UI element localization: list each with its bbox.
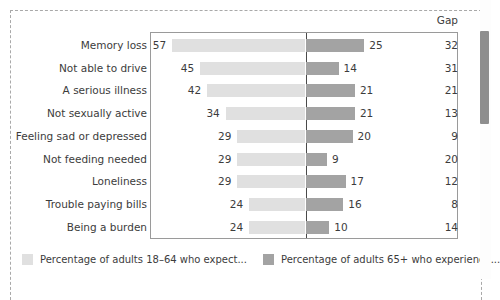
left-value-label: 57: [132, 34, 166, 57]
chart-row: A serious illness422121: [0, 79, 492, 102]
gap-value: 32: [445, 34, 458, 57]
chart-legend: Percentage of adults 18–64 who expect...…: [22, 250, 462, 268]
bar-left-18-64: [172, 39, 305, 52]
legend-swatch-light: [22, 254, 33, 265]
bar-left-18-64: [200, 62, 305, 75]
gap-value: 9: [451, 125, 458, 148]
chart-row: Not sexually active342113: [0, 102, 492, 125]
chart-row: Being a burden241014: [0, 216, 492, 239]
category-label: Not able to drive: [14, 57, 147, 80]
vertical-scrollbar-thumb[interactable]: [480, 31, 489, 124]
gap-value: 12: [445, 170, 458, 193]
right-value-label: 10: [334, 216, 347, 239]
legend-swatch-dark: [263, 254, 274, 265]
bar-left-18-64: [249, 198, 305, 211]
chart-row: Feeling sad or depressed29209: [0, 125, 492, 148]
category-label: Memory loss: [14, 34, 147, 57]
bar-right-65-plus: [306, 130, 353, 143]
bar-right-65-plus: [306, 107, 355, 120]
bar-left-18-64: [237, 175, 305, 188]
gap-value: 14: [445, 216, 458, 239]
chart-row: Loneliness291712: [0, 170, 492, 193]
left-value-label: 29: [197, 170, 231, 193]
bar-left-18-64: [237, 130, 305, 143]
gap-value: 21: [445, 79, 458, 102]
bar-right-65-plus: [306, 153, 327, 166]
right-value-label: 21: [360, 102, 373, 125]
bar-left-18-64: [226, 107, 305, 120]
chart-row: Memory loss572532: [0, 34, 492, 57]
left-value-label: 24: [209, 216, 243, 239]
left-value-label: 42: [167, 79, 201, 102]
right-value-label: 17: [351, 170, 364, 193]
gap-value: 8: [451, 193, 458, 216]
bar-right-65-plus: [306, 84, 355, 97]
category-label: Not sexually active: [14, 102, 147, 125]
chart-row: Not able to drive451431: [0, 57, 492, 80]
right-value-label: 25: [369, 34, 382, 57]
bar-right-65-plus: [306, 39, 364, 52]
right-value-label: 20: [358, 125, 371, 148]
bar-right-65-plus: [306, 198, 343, 211]
right-value-label: 9: [332, 148, 339, 171]
chart-row: Trouble paying bills24168: [0, 193, 492, 216]
bar-left-18-64: [249, 221, 305, 234]
left-value-label: 24: [209, 193, 243, 216]
category-label: Trouble paying bills: [14, 193, 147, 216]
category-label: Feeling sad or depressed: [14, 125, 147, 148]
right-value-label: 14: [344, 57, 357, 80]
bar-right-65-plus: [306, 62, 339, 75]
legend-item[interactable]: Percentage of adults 65+ who experience.…: [263, 254, 500, 265]
category-label: Being a burden: [14, 216, 147, 239]
category-label: Not feeding needed: [14, 148, 147, 171]
gap-column-header: Gap: [437, 14, 458, 26]
category-label: A serious illness: [14, 79, 147, 102]
gap-value: 20: [445, 148, 458, 171]
right-value-label: 16: [348, 193, 361, 216]
left-value-label: 29: [197, 148, 231, 171]
vertical-scrollbar-track[interactable]: [480, 0, 491, 279]
bar-right-65-plus: [306, 175, 346, 188]
gap-value: 13: [445, 102, 458, 125]
left-value-label: 45: [160, 57, 194, 80]
legend-label: Percentage of adults 18–64 who expect...: [40, 254, 247, 265]
legend-item[interactable]: Percentage of adults 18–64 who expect...: [22, 254, 247, 265]
bar-left-18-64: [237, 153, 305, 166]
bar-right-65-plus: [306, 221, 329, 234]
right-value-label: 21: [360, 79, 373, 102]
left-value-label: 34: [186, 102, 220, 125]
bar-left-18-64: [207, 84, 305, 97]
left-value-label: 29: [197, 125, 231, 148]
legend-label: Percentage of adults 65+ who experience.…: [281, 254, 500, 265]
gap-value: 31: [445, 57, 458, 80]
category-label: Loneliness: [14, 170, 147, 193]
chart-row: Not feeding needed29920: [0, 148, 492, 171]
